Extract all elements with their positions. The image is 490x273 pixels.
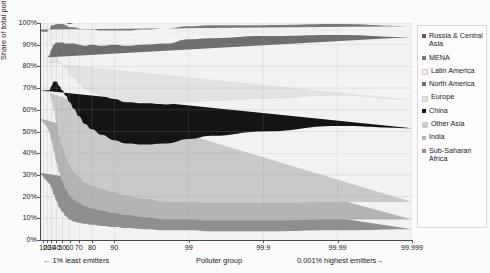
legend-item-label: India <box>429 133 445 141</box>
legend-item[interactable]: Other Asia <box>422 120 483 128</box>
legend-swatch-icon <box>422 149 426 153</box>
legend-swatch-icon <box>422 82 426 86</box>
chart-page: 0%10%20%30%40%50%60%70%80%90%100% 102030… <box>0 0 490 273</box>
legend-swatch-icon <box>422 136 426 140</box>
x-axis-tick-label: 70 <box>75 243 83 252</box>
caption-highest-emitters: 0.001% highest emitters→ <box>297 256 384 265</box>
legend-item-label: China <box>429 107 448 115</box>
legend-swatch-icon <box>422 34 426 38</box>
legend-item[interactable]: Sub-Saharan Africa <box>422 147 483 164</box>
legend-item[interactable]: North America <box>422 80 483 88</box>
y-axis-title: Share of total pollution (%) <box>0 0 8 60</box>
legend-swatch-icon <box>422 96 428 102</box>
x-axis-tick-label: 99.9 <box>256 243 270 252</box>
legend-item-label: Russia & Central Asia <box>429 32 483 49</box>
x-axis-tick-mark <box>412 240 413 243</box>
legend-item[interactable]: India <box>422 133 483 141</box>
x-axis-line <box>40 240 412 241</box>
legend-item[interactable]: Europe <box>422 93 483 101</box>
x-axis-tick-label: 99.999 <box>401 243 423 252</box>
caption-polluter-group: Polluter group <box>196 256 242 265</box>
legend-swatch-icon <box>422 109 426 113</box>
legend-item-label: Sub-Saharan Africa <box>429 147 483 164</box>
legend-item-label: MENA <box>429 54 450 62</box>
x-axis-tick-label: 90 <box>110 243 118 252</box>
legend-item[interactable]: China <box>422 107 483 115</box>
stacked-area-svg <box>40 23 412 240</box>
x-axis-tick-label: 80 <box>88 243 96 252</box>
legend: Russia & Central AsiaMENALatin AmericaNo… <box>417 25 487 228</box>
legend-item-label: North America <box>429 80 475 88</box>
x-axis-tick-label: 99 <box>185 243 193 252</box>
plot-area <box>40 23 412 240</box>
x-axis-tick-label: 99.99 <box>329 243 347 252</box>
legend-item-label: Europe <box>431 93 454 101</box>
legend-item-label: Latin America <box>431 67 475 75</box>
caption-least-emitters: ← 1% least emitters <box>43 256 109 265</box>
area-band <box>40 35 412 58</box>
legend-item[interactable]: Latin America <box>422 67 483 75</box>
legend-swatch-icon <box>422 69 428 75</box>
legend-item[interactable]: MENA <box>422 54 483 62</box>
x-axis-tick-label: 60 <box>66 243 74 252</box>
legend-swatch-icon <box>422 56 426 60</box>
y-axis-line <box>40 23 41 241</box>
legend-item[interactable]: Russia & Central Asia <box>422 32 483 49</box>
legend-item-label: Other Asia <box>431 120 465 128</box>
legend-swatch-icon <box>422 122 428 128</box>
